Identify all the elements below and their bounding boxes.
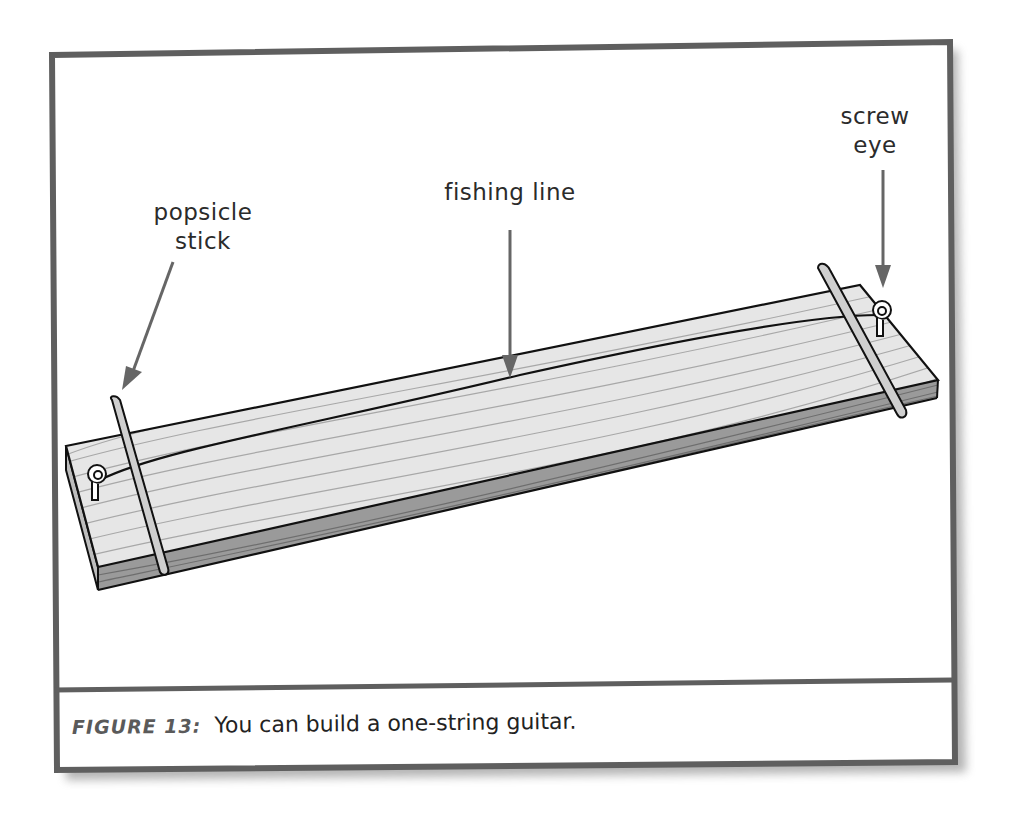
figure-caption: FIGURE 13: You can build a one-string gu…: [72, 709, 577, 739]
label-line: stick: [138, 227, 268, 256]
figure-number: FIGURE 13:: [72, 715, 202, 738]
label-line: popsicle: [138, 198, 268, 227]
label-screw-eye: screw eye: [820, 102, 930, 160]
caption-text: You can build a one-string guitar.: [214, 709, 576, 738]
label-fishing-line: fishing line: [420, 178, 600, 207]
label-popsicle-stick: popsicle stick: [138, 198, 268, 256]
label-line: screw: [820, 102, 930, 131]
label-line: eye: [820, 131, 930, 160]
